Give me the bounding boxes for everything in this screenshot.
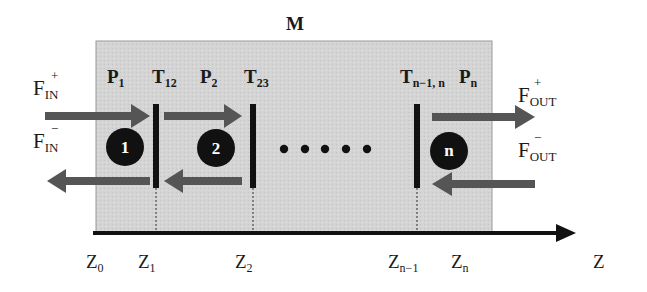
- compartment-2: 2: [197, 129, 235, 167]
- axis-tick-z1: Z1: [138, 251, 156, 275]
- flux-sup-out-plus: +: [534, 75, 541, 90]
- axis-tick-z2: Z2: [235, 251, 253, 275]
- svg-text:n: n: [444, 141, 454, 160]
- medium-label: M: [286, 13, 304, 34]
- compartment-n: n: [430, 132, 468, 170]
- axis-tick-zn: Zn: [451, 251, 469, 275]
- svg-text:2: 2: [212, 139, 221, 158]
- flux-sup-out-minus: −: [534, 130, 541, 145]
- axis-tick-zn1: Zn−1: [388, 251, 418, 275]
- compartment-1: 1: [106, 128, 144, 166]
- barrier-t23: [250, 104, 256, 188]
- flux-sup-in-plus: +: [51, 68, 58, 83]
- flux-sup-in-minus: −: [51, 121, 58, 136]
- multi-compartment-diagram: M 1 2 n: [0, 0, 647, 292]
- svg-text:1: 1: [121, 138, 130, 157]
- axis-label-z: Z: [593, 251, 605, 272]
- axis-tick-z0: Z0: [86, 251, 104, 275]
- barrier-tn: [414, 104, 420, 188]
- barrier-t12: [153, 104, 159, 188]
